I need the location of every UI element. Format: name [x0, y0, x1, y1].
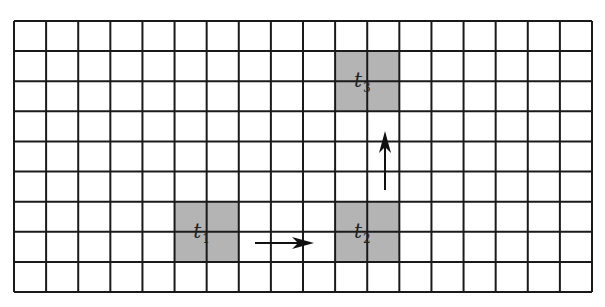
motion-grid-diagram: t1t2t3: [0, 0, 605, 307]
arrow-t1-to-t2-icon: [255, 237, 314, 249]
grid-lines: [14, 21, 592, 292]
arrow-t2-to-t3-icon: [379, 131, 391, 190]
